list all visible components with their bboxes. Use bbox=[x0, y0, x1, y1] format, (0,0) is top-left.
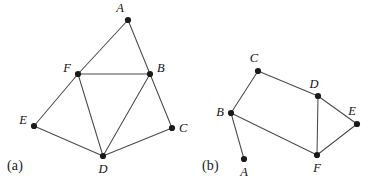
panel-caption-b: (b) bbox=[202, 158, 219, 174]
graph-edge-FD bbox=[78, 74, 103, 156]
graph-vertex-E bbox=[31, 123, 37, 129]
vertex-label-F: F bbox=[62, 61, 71, 75]
graph-edge-EF bbox=[317, 124, 357, 155]
graph-vertex-A bbox=[125, 17, 131, 23]
graph-edge-BC bbox=[150, 74, 172, 128]
graph-edge-AB bbox=[128, 20, 150, 74]
vertex-label-F: F bbox=[312, 161, 321, 175]
graph-edge-AF bbox=[78, 20, 128, 74]
vertex-label-E: E bbox=[18, 113, 27, 127]
panel-caption-a: (a) bbox=[7, 158, 23, 174]
graph-panel-a: AFBECD bbox=[18, 1, 188, 176]
graph-vertex-F bbox=[75, 71, 81, 77]
graph-edge-BF bbox=[231, 113, 317, 155]
graph-vertex-D bbox=[100, 153, 106, 159]
vertex-label-A: A bbox=[239, 165, 248, 179]
vertex-label-B: B bbox=[216, 105, 224, 119]
vertex-label-D: D bbox=[97, 162, 107, 176]
graph-vertex-B bbox=[147, 71, 153, 77]
graph-vertex-B bbox=[228, 110, 234, 116]
graph-edge-BA bbox=[231, 113, 244, 159]
vertex-label-C: C bbox=[179, 121, 188, 135]
graph-vertex-D bbox=[315, 93, 321, 99]
graph-vertex-C bbox=[169, 125, 175, 131]
graph-edge-ED bbox=[34, 126, 103, 156]
graph-vertex-F bbox=[314, 152, 320, 158]
vertex-label-B: B bbox=[157, 61, 165, 75]
vertex-label-C: C bbox=[250, 51, 259, 65]
graph-edge-BC bbox=[231, 71, 258, 113]
graph-edge-BD bbox=[103, 74, 150, 156]
graph-vertex-E bbox=[354, 121, 360, 127]
vertex-label-E: E bbox=[347, 104, 356, 118]
graph-edge-DC bbox=[103, 128, 172, 156]
graph-edge-FE bbox=[34, 74, 78, 126]
figure-root: AFBECD CBDEFA (a) (b) bbox=[0, 0, 369, 185]
graph-canvas: AFBECD CBDEFA bbox=[0, 0, 369, 185]
vertex-label-D: D bbox=[308, 77, 318, 91]
graph-panel-b: CBDEFA bbox=[216, 51, 360, 179]
graph-edge-DF bbox=[317, 96, 318, 155]
graph-vertex-C bbox=[255, 68, 261, 74]
graph-vertex-A bbox=[241, 156, 247, 162]
vertex-label-A: A bbox=[115, 1, 124, 15]
